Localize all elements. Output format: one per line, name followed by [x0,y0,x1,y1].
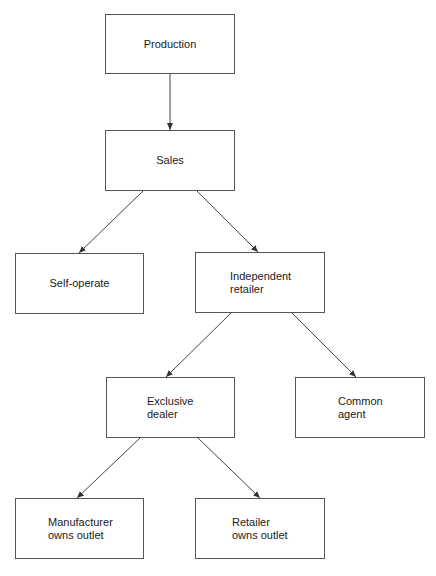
node-label: Manufacturer owns outlet [48,516,113,542]
node-production: Production [105,14,235,74]
node-label: Retailer owns outlet [232,516,288,542]
node-label: Independent retailer [230,270,291,296]
node-label: Common agent [338,395,383,421]
node-label: Sales [156,154,184,167]
arrow-exclusive-dealer-to-retailer-owns-outlet [198,438,260,498]
node-label: Exclusive dealer [147,395,193,421]
node-retailer-owns-outlet: Retailer owns outlet [195,498,325,559]
node-sales: Sales [105,130,235,191]
node-label: Production [144,38,197,51]
node-label: Self-operate [50,277,110,290]
node-common-agent: Common agent [295,377,425,438]
arrow-sales-to-independent-retailer [197,191,258,252]
node-self-operate: Self-operate [15,253,144,314]
arrow-exclusive-dealer-to-manufacturer-owns-outlet [77,438,140,498]
arrow-independent-retailer-to-exclusive-dealer [166,313,231,377]
node-exclusive-dealer: Exclusive dealer [106,377,235,438]
arrow-independent-retailer-to-common-agent [292,313,356,377]
arrow-sales-to-self-operate [79,191,143,253]
node-independent-retailer: Independent retailer [195,252,325,313]
node-manufacturer-owns-outlet: Manufacturer owns outlet [15,498,144,559]
